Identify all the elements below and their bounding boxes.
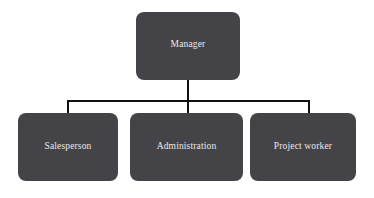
node-project-worker[interactable]: Project worker [250,113,356,181]
node-project-worker-label: Project worker [274,142,332,152]
node-salesperson[interactable]: Salesperson [18,113,118,181]
node-administration[interactable]: Administration [130,113,243,181]
org-chart-canvas: Manager Salesperson Administration Proje… [0,0,374,198]
connector-drop-project-worker [308,100,310,114]
node-salesperson-label: Salesperson [44,142,91,152]
node-manager-label: Manager [171,40,206,50]
connector-manager-trunk [187,79,189,102]
connector-drop-administration [187,100,189,114]
node-administration-label: Administration [157,142,217,152]
node-manager[interactable]: Manager [136,12,240,80]
connector-drop-salesperson [67,100,69,114]
